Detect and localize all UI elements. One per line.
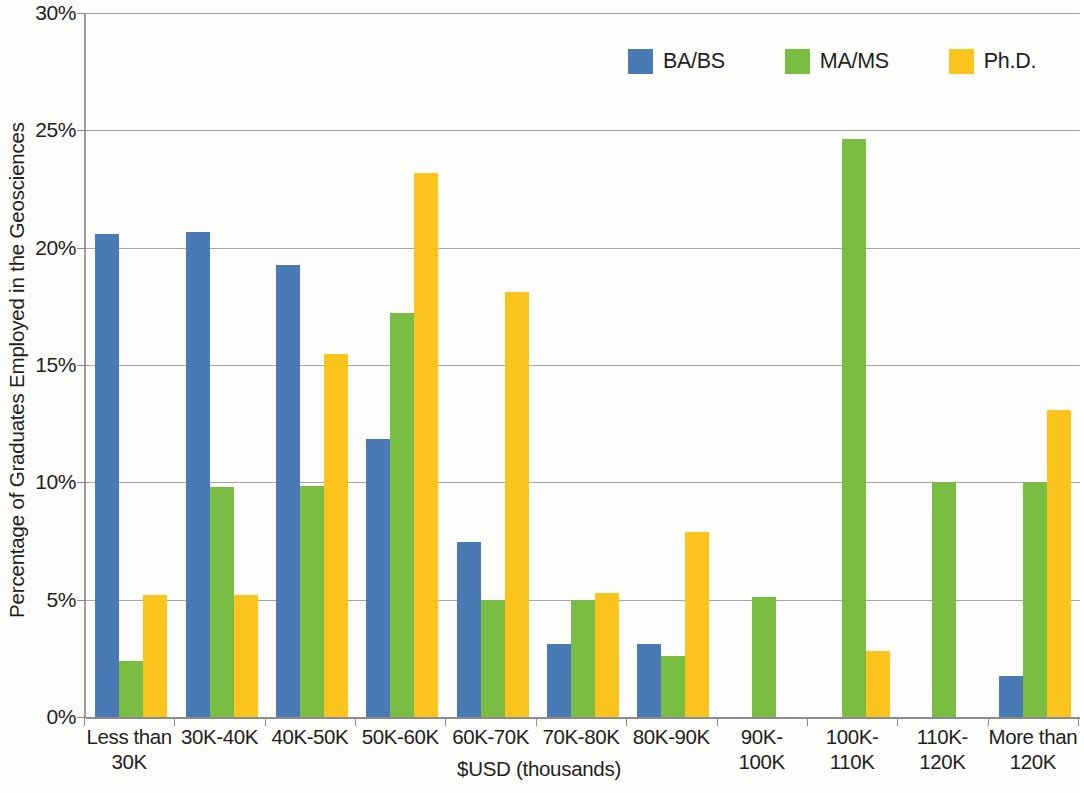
bar-ph-d[interactable] — [1047, 410, 1071, 717]
plot-area — [84, 13, 1080, 717]
legend: BA/BSMA/MSPh.D. — [628, 44, 1036, 78]
bar-ba-bs[interactable] — [457, 542, 481, 717]
bar-group — [899, 13, 989, 717]
y-axis-tick-label: 25% — [14, 118, 76, 142]
bar-group — [719, 13, 809, 717]
bar-ma-ms[interactable] — [932, 482, 956, 717]
y-axis-tick-label: 30% — [14, 1, 76, 25]
bar-group — [990, 13, 1080, 717]
y-axis-tickmark — [77, 130, 86, 131]
y-axis-tick-label: 0% — [14, 705, 76, 729]
y-axis-tickmark — [77, 13, 86, 14]
legend-label: Ph.D. — [984, 49, 1036, 74]
legend-label: BA/BS — [663, 49, 725, 74]
bar-ph-d[interactable] — [866, 651, 890, 717]
bar-ba-bs[interactable] — [186, 232, 210, 717]
bar-group — [86, 13, 176, 717]
bar-ba-bs[interactable] — [999, 676, 1023, 717]
bar-group — [447, 13, 537, 717]
y-axis-tickmark — [77, 365, 86, 366]
y-axis-tick-label: 15% — [14, 353, 76, 377]
bar-ph-d[interactable] — [234, 595, 258, 717]
x-axis-title: $USD (thousands) — [0, 757, 1078, 781]
bar-group — [357, 13, 447, 717]
bar-ma-ms[interactable] — [210, 487, 234, 717]
legend-item[interactable]: Ph.D. — [949, 49, 1036, 74]
y-axis-tickmark — [77, 482, 86, 483]
bar-group — [809, 13, 899, 717]
bar-ph-d[interactable] — [685, 532, 709, 717]
bar-group — [176, 13, 266, 717]
y-axis-tick-label: 10% — [14, 470, 76, 494]
y-axis-tick-label: 20% — [14, 236, 76, 260]
legend-swatch-icon — [785, 49, 810, 74]
legend-item[interactable]: BA/BS — [628, 49, 725, 74]
bar-ba-bs[interactable] — [276, 265, 300, 717]
bar-ma-ms[interactable] — [300, 486, 324, 717]
bars-layer — [86, 13, 1080, 717]
legend-swatch-icon — [628, 49, 653, 74]
bar-ma-ms[interactable] — [752, 597, 776, 717]
legend-label: MA/MS — [820, 49, 889, 74]
bar-ma-ms[interactable] — [1023, 482, 1047, 717]
bar-ph-d[interactable] — [143, 595, 167, 717]
legend-item[interactable]: MA/MS — [785, 49, 889, 74]
bar-ph-d[interactable] — [595, 593, 619, 717]
legend-swatch-icon — [949, 49, 974, 74]
bar-ba-bs[interactable] — [547, 644, 571, 717]
bar-ph-d[interactable] — [324, 354, 348, 717]
bar-ph-d[interactable] — [414, 173, 438, 717]
bar-group — [267, 13, 357, 717]
bar-ba-bs[interactable] — [366, 439, 390, 717]
bar-group — [538, 13, 628, 717]
y-axis-tick-labels: 0%5%10%15%20%25%30% — [0, 0, 76, 793]
bar-ba-bs[interactable] — [637, 644, 661, 717]
y-axis-tickmark — [77, 248, 86, 249]
bar-ph-d[interactable] — [505, 292, 529, 717]
bar-ma-ms[interactable] — [390, 313, 414, 717]
bar-ma-ms[interactable] — [842, 139, 866, 717]
bar-ma-ms[interactable] — [119, 661, 143, 717]
bar-ma-ms[interactable] — [571, 600, 595, 717]
bar-ba-bs[interactable] — [95, 234, 119, 717]
y-axis-tickmark — [77, 600, 86, 601]
bar-group — [628, 13, 718, 717]
bar-ma-ms[interactable] — [661, 656, 685, 717]
y-axis-tick-label: 5% — [14, 588, 76, 612]
bar-ma-ms[interactable] — [481, 600, 505, 717]
